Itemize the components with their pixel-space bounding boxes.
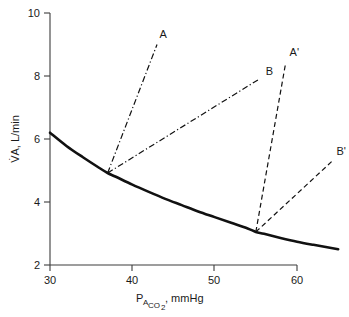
series-label-B: B: [266, 65, 273, 77]
y-axis-title: V̇A, L/min: [9, 115, 21, 163]
x-tick-label-30: 30: [44, 274, 56, 286]
series-label-B-prime: B': [337, 145, 346, 157]
x-tick-group: 30 40 50 60: [44, 265, 303, 286]
ventilation-pco2-chart: 10 8 6 4 2 30 40 50 60 V̇A, L/min P A CO…: [0, 0, 349, 317]
series-group: [50, 45, 338, 250]
series-label-A: A: [160, 28, 168, 40]
y-tick-group: 10 8 6 4 2: [28, 7, 50, 271]
x-axis-title-group: P A CO 2 , mmHg: [136, 292, 204, 312]
series-path-ventilatory-response-B: [108, 79, 259, 173]
x-tick-label-50: 50: [208, 274, 220, 286]
y-tick-label-2: 2: [34, 259, 40, 271]
y-tick-label-8: 8: [34, 70, 40, 82]
axis-group: [50, 13, 297, 265]
x-axis-title-sub-co2-num: 2: [161, 303, 166, 312]
series-label-group: A B A' B': [160, 28, 346, 158]
x-tick-label-60: 60: [291, 274, 303, 286]
x-axis-title-sub-co2: CO: [148, 301, 160, 310]
series-path-ventilatory-response-B-prime: [256, 162, 332, 232]
series-path-metabolic-hyperbola: [50, 133, 338, 250]
series-label-A-prime: A': [290, 46, 299, 58]
chart-canvas: 10 8 6 4 2 30 40 50 60 V̇A, L/min P A CO…: [0, 0, 349, 317]
y-axis-title-group: V̇A, L/min: [9, 115, 21, 163]
y-tick-label-6: 6: [34, 133, 40, 145]
y-tick-label-4: 4: [34, 196, 40, 208]
x-tick-label-40: 40: [126, 274, 138, 286]
series-path-ventilatory-response-A-prime: [256, 64, 286, 232]
y-tick-label-10: 10: [28, 7, 40, 19]
series-path-ventilatory-response-A: [108, 45, 157, 174]
x-axis-title-units: , mmHg: [165, 292, 204, 304]
